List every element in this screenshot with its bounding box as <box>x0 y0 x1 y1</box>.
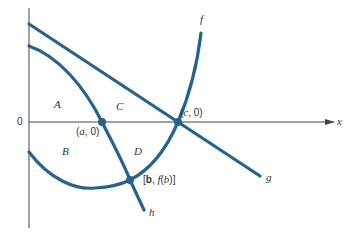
origin-label: 0 <box>17 116 23 127</box>
region-d-label: D <box>133 145 142 157</box>
point-a-label: (a, 0) <box>76 125 99 137</box>
point-b-label: [b, f(b)] <box>143 173 176 185</box>
curve-g-label: g <box>266 171 272 183</box>
region-b-label: B <box>62 145 69 157</box>
region-a-label: A <box>53 98 61 110</box>
curve-f <box>29 33 201 188</box>
point-b <box>126 176 134 184</box>
curve-f-label: f <box>200 13 205 25</box>
function-graph-diagram: x 0 g h f (a, 0) (c, 0) [b, f(b)] A C B … <box>0 0 356 240</box>
region-c-label: C <box>116 100 124 112</box>
point-a <box>98 118 106 126</box>
curve-h-label: h <box>149 206 155 218</box>
point-c-label: (c, 0) <box>180 106 203 118</box>
x-axis-label: x <box>336 115 342 127</box>
point-c <box>174 118 182 126</box>
